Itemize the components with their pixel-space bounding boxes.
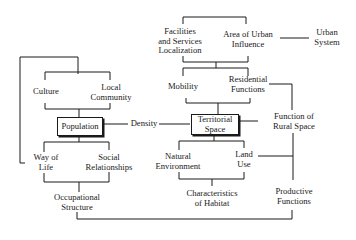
node-natural-environment: Natural Environment xyxy=(156,152,201,171)
label-line: Life xyxy=(34,163,59,173)
node-density: Density xyxy=(131,119,158,129)
label-line: Density xyxy=(131,119,158,129)
label-line: Relationships xyxy=(86,163,133,173)
node-productive-functions: Productive Functions xyxy=(275,187,312,206)
label-line: Culture xyxy=(33,87,59,97)
label-line: Space xyxy=(192,125,238,135)
label-line: Influence xyxy=(223,40,273,50)
label-line: Community xyxy=(90,93,131,103)
node-social-relationships: Social Relationships xyxy=(86,153,133,172)
label-line: Use xyxy=(235,160,253,170)
label-line: Structure xyxy=(54,203,100,213)
label-line: Population xyxy=(61,121,98,131)
node-local-community: Local Community xyxy=(90,83,131,102)
node-occupational-structure: Occupational Structure xyxy=(54,193,100,212)
node-residential-functions: Residential Functions xyxy=(229,75,268,94)
label-line: Functions xyxy=(229,85,268,95)
label-line: Rural Space xyxy=(273,122,315,132)
node-function-of-rural-space: Function of Rural Space xyxy=(273,112,315,131)
node-urban-system: Urban System xyxy=(314,28,339,47)
label-line: Mobility xyxy=(168,82,198,92)
node-culture: Culture xyxy=(33,87,59,97)
node-area-of-urban-influence: Area of Urban Influence xyxy=(223,30,273,49)
node-land-use: Land Use xyxy=(235,150,253,169)
node-population: Population xyxy=(57,117,103,136)
node-mobility: Mobility xyxy=(168,82,198,92)
node-facilities-services-localization: Facilities and Services Localization xyxy=(158,27,202,56)
label-line: System xyxy=(314,38,339,48)
node-territorial-space: Territorial Space xyxy=(191,114,239,135)
label-line: Functions xyxy=(275,197,312,207)
label-line: Localization xyxy=(158,46,202,56)
node-characteristics-of-habitat: Characteristics of Habitat xyxy=(186,189,237,208)
label-line: of Habitat xyxy=(186,199,237,209)
node-way-of-life: Way of Life xyxy=(34,153,59,172)
label-line: Environment xyxy=(156,162,201,172)
